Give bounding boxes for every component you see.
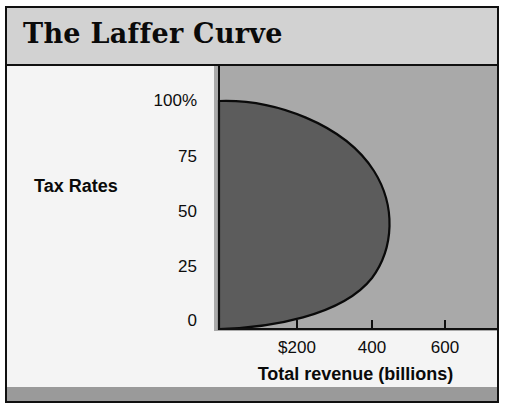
x-axis-title: Total revenue (billions): [214, 364, 497, 385]
page-title: The Laffer Curve: [23, 18, 283, 49]
y-tick-label-100: 100%: [154, 91, 197, 111]
laffer-curve-shape: [219, 101, 390, 329]
y-tick-label-75: 75: [178, 147, 197, 167]
laffer-curve-figure: The Laffer Curve 100% 75: [0, 0, 506, 411]
figure-frame: The Laffer Curve 100% 75: [5, 6, 499, 403]
laffer-curve-plot: [214, 66, 497, 331]
footer-strip: [7, 387, 497, 401]
x-tick-label-600: 600: [410, 338, 480, 358]
x-tick-label-400: 400: [337, 338, 407, 358]
y-tick-label-50: 50: [178, 202, 197, 222]
x-tick-label-200: $200: [262, 338, 332, 358]
y-axis-title: Tax Rates: [34, 176, 118, 197]
y-tick-label-25: 25: [178, 257, 197, 277]
chart-body: 100% 75 50 25 0 Tax Rates $200 400 600 T…: [7, 66, 497, 387]
y-tick-label-0: 0: [188, 311, 197, 331]
title-band: The Laffer Curve: [7, 8, 497, 66]
plot-panel: [214, 66, 497, 331]
